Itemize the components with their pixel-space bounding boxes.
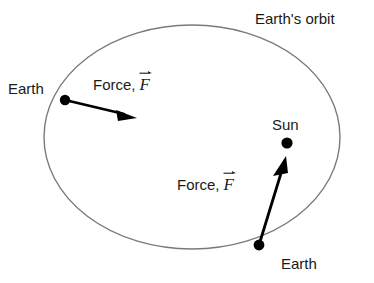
force-label-lower: Force, F (177, 176, 234, 193)
force-label-upper-text: Force, (93, 77, 136, 92)
earth-bottom-dot (254, 240, 265, 251)
force-label-lower-text: Force, (177, 177, 220, 192)
diagram-vector-layer (0, 0, 374, 283)
sun-label: Sun (272, 117, 299, 132)
earth-orbit-ellipse (44, 25, 340, 249)
sun-dot (281, 137, 292, 148)
force-symbol-lower-letter: F (224, 175, 234, 194)
earth-orbit-label: Earth's orbit (255, 11, 335, 26)
earth-left-dot (60, 95, 70, 105)
force-label-upper: Force, F (93, 76, 150, 93)
orbit-diagram-canvas: Earth Earth's orbit Sun Earth Force, F F… (0, 0, 374, 283)
force-symbol-lower: F (224, 176, 234, 193)
force-arrow-lower (259, 156, 288, 245)
earth-bottom-label: Earth (281, 256, 317, 271)
force-arrow-upper (65, 100, 137, 121)
earth-left-label: Earth (8, 81, 44, 96)
force-symbol-upper-letter: F (140, 75, 150, 94)
force-symbol-upper: F (140, 76, 150, 93)
